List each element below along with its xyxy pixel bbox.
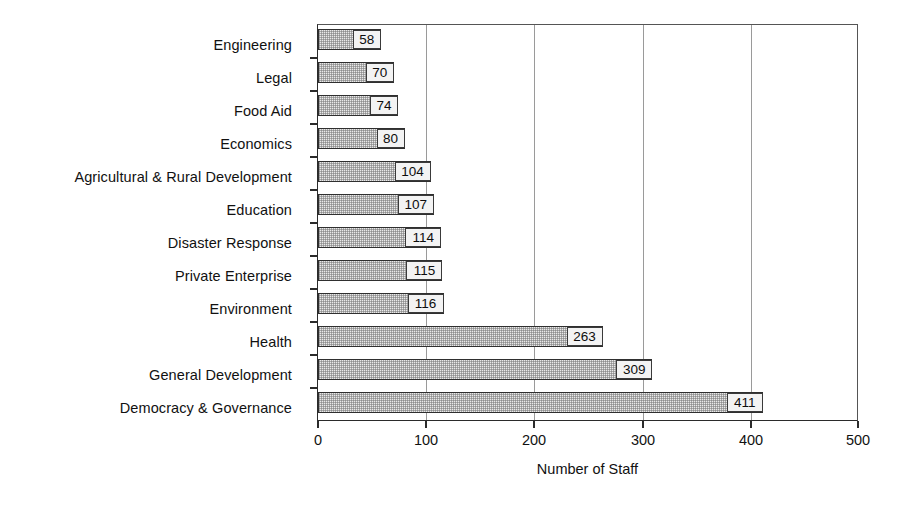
x-axis-tick — [317, 421, 319, 428]
x-axis-label-5: 500 — [846, 432, 870, 448]
y-axis-tick — [310, 123, 317, 125]
y-axis-tick — [310, 222, 317, 224]
plot-area: 58707480104107114115116263309411 — [317, 24, 858, 421]
bar-value-label: 58 — [353, 30, 381, 49]
x-axis-tick — [857, 421, 859, 428]
y-axis-tick — [310, 288, 317, 290]
bar-value-label: 411 — [727, 393, 763, 412]
bar-row[interactable]: 116 — [318, 293, 859, 314]
category-label-0: Engineering — [214, 38, 293, 53]
category-label-10: General Development — [149, 368, 292, 383]
bar-row[interactable]: 58 — [318, 29, 859, 50]
bar-row[interactable]: 104 — [318, 161, 859, 182]
bar-value-label: 309 — [616, 360, 652, 379]
x-axis-tick — [750, 421, 752, 428]
bar-value-label: 115 — [406, 261, 442, 280]
y-axis-tick — [310, 255, 317, 257]
bar-row[interactable]: 74 — [318, 95, 859, 116]
bar[interactable] — [318, 326, 603, 347]
category-label-1: Legal — [256, 71, 292, 86]
bar[interactable] — [318, 359, 652, 380]
category-label-11: Democracy & Governance — [120, 401, 292, 416]
x-axis-tick — [642, 421, 644, 428]
x-axis-title: Number of Staff — [0, 461, 905, 477]
category-label-7: Private Enterprise — [175, 269, 292, 284]
y-axis-tick — [310, 321, 317, 323]
y-axis-tick — [310, 90, 317, 92]
x-axis-label-4: 400 — [739, 432, 763, 448]
bar-value-label: 116 — [408, 294, 444, 313]
y-axis-tick — [310, 387, 317, 389]
category-label-6: Disaster Response — [168, 236, 292, 251]
bar-value-label: 80 — [377, 129, 405, 148]
bar-value-label: 74 — [370, 96, 398, 115]
bar-row[interactable]: 309 — [318, 359, 859, 380]
bar-row[interactable]: 70 — [318, 62, 859, 83]
y-axis-tick — [310, 57, 317, 59]
category-label-4: Agricultural & Rural Development — [74, 170, 292, 185]
x-axis-label-0: 0 — [314, 432, 322, 448]
bar-value-label: 107 — [398, 195, 434, 214]
category-label-5: Education — [227, 203, 292, 218]
bar-row[interactable]: 115 — [318, 260, 859, 281]
bar-row[interactable]: 263 — [318, 326, 859, 347]
bar-value-label: 70 — [366, 63, 394, 82]
category-label-8: Environment — [210, 302, 293, 317]
x-axis-title-text: Number of Staff — [537, 461, 638, 477]
x-axis-label-2: 200 — [522, 432, 546, 448]
category-label-2: Food Aid — [234, 104, 292, 119]
bar-row[interactable]: 114 — [318, 227, 859, 248]
bar-row[interactable]: 107 — [318, 194, 859, 215]
x-axis-tick — [425, 421, 427, 428]
y-axis-tick — [310, 189, 317, 191]
bar-chart: Engineering Legal Food Aid Economics Agr… — [0, 0, 905, 506]
category-label-3: Economics — [220, 137, 292, 152]
bar-value-label: 114 — [405, 228, 441, 247]
bar[interactable] — [318, 392, 763, 413]
bar-value-label: 104 — [395, 162, 431, 181]
bar-value-label: 263 — [567, 327, 603, 346]
x-axis-label-3: 300 — [631, 432, 655, 448]
y-axis-tick — [310, 354, 317, 356]
bar-row[interactable]: 80 — [318, 128, 859, 149]
y-axis-tick — [310, 156, 317, 158]
category-label-9: Health — [249, 335, 292, 350]
x-axis-tick — [533, 421, 535, 428]
bar-row[interactable]: 411 — [318, 392, 859, 413]
x-axis-label-1: 100 — [414, 432, 438, 448]
